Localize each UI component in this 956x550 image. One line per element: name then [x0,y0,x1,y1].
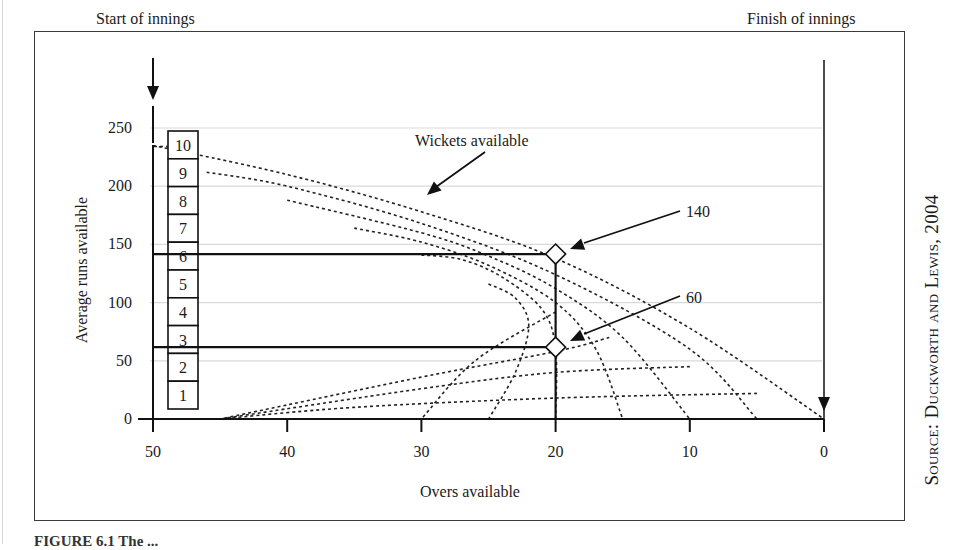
point-140-arrow-shaft [584,211,680,243]
wicket-box-label: 1 [179,387,187,404]
y-tick-label: 100 [108,294,132,311]
wicket-box-label: 3 [179,332,187,349]
x-tick-label: 10 [682,443,698,460]
x-tick-label: 50 [145,443,161,460]
point-60-arrow-icon [570,330,585,341]
start-arrow-icon [147,86,159,100]
y-tick-label: 150 [108,235,132,252]
wicket-curve [287,200,690,419]
finish-arrow-icon [818,397,830,411]
wicket-box-label: 2 [179,359,187,376]
wicket-box-label: 10 [175,137,191,154]
source-credit: Source: Duckworth and Lewis, 2004 [921,194,943,485]
wicket-box-label: 6 [179,248,187,265]
wicket-box-label: 5 [179,276,187,293]
point-60-label: 60 [686,289,702,307]
y-tick-label: 0 [124,410,132,427]
axes: 50403020100050100150200250 [108,60,828,460]
figure-caption: FIGURE 6.1 The ... [34,533,158,550]
wicket-curve [421,312,555,419]
x-tick-label: 30 [413,443,429,460]
x-tick-label: 0 [820,443,828,460]
wickets-arrow-shaft [436,152,485,187]
annotations [147,58,830,419]
wickets-arrow-icon [427,181,442,195]
y-tick-label: 250 [108,119,132,136]
y-tick-label: 50 [116,352,132,369]
wicket-box-label: 8 [179,193,187,210]
x-axis-label: Overs available [420,483,520,501]
gridlines [150,128,822,361]
wickets-available-label: Wickets available [415,132,529,150]
wicket-box-label: 7 [179,220,187,237]
wicket-curve [207,172,757,419]
x-tick-label: 20 [548,443,564,460]
wicket-box-label: 9 [179,165,187,182]
point-140-label: 140 [686,203,710,221]
y-tick-label: 200 [108,177,132,194]
wicket-box-label: 4 [179,304,187,321]
start-of-innings-label: Start of innings [96,10,195,28]
diamond-marker-icon [546,337,566,357]
y-axis-label: Average runs available [73,197,91,343]
finish-of-innings-label: Finish of innings [747,10,855,28]
point-60-arrow-shaft [584,296,680,334]
wicket-curve [421,255,556,419]
x-tick-label: 40 [279,443,295,460]
wicket-curve [354,228,622,419]
